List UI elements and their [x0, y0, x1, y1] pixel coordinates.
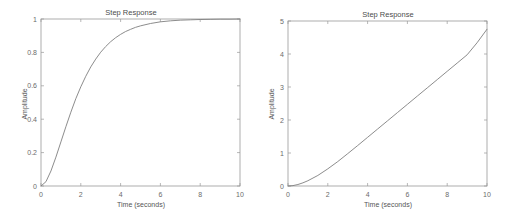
x-tick-label: 2 [79, 191, 83, 198]
tick-marks-left [41, 19, 240, 186]
x-tick-label: 4 [119, 191, 123, 198]
plot-title-left: Step Response [105, 8, 156, 17]
y-tick-label: 5 [280, 18, 284, 25]
y-tick-label: 0.2 [27, 149, 37, 156]
plot-title-right: Step Response [362, 10, 413, 19]
y-tick-labels-left: 00.20.40.60.81 [27, 16, 37, 190]
x-tick-label: 2 [326, 191, 330, 198]
y-tick-label: 0.6 [27, 82, 37, 89]
x-tick-labels-left: 0246810 [39, 191, 244, 198]
y-tick-label: 1 [33, 16, 37, 23]
data-line-right [288, 29, 487, 186]
y-tick-label: 4 [280, 51, 284, 58]
y-tick-label: 0 [33, 183, 37, 190]
plot-svg-right: Step Response 0246810 012345 Time (secon… [257, 0, 514, 222]
x-tick-labels-right: 0246810 [286, 191, 491, 198]
y-tick-label: 0.4 [27, 116, 37, 123]
x-tick-label: 6 [158, 191, 162, 198]
y-tick-label: 0.8 [27, 49, 37, 56]
y-tick-label: 3 [280, 84, 284, 91]
y-axis-label-left: Amplitude [21, 88, 29, 119]
x-axis-label-left: Time (seconds) [117, 201, 165, 209]
y-tick-label: 2 [280, 117, 284, 124]
axes-left: 0246810 00.20.40.60.81 [27, 16, 244, 199]
data-line-left [41, 19, 240, 186]
x-tick-label: 8 [445, 191, 449, 198]
y-axis-label-right: Amplitude [268, 88, 276, 119]
y-tick-label: 1 [280, 150, 284, 157]
x-tick-label: 4 [366, 191, 370, 198]
figure-row: Step Response 0246810 00.20.40.60.81 Tim… [0, 0, 514, 222]
x-axis-label-right: Time (seconds) [364, 201, 412, 209]
x-tick-label: 0 [286, 191, 290, 198]
x-tick-label: 6 [405, 191, 409, 198]
axis-frame-right [288, 21, 487, 186]
y-tick-label: 0 [280, 183, 284, 190]
x-tick-label: 10 [483, 191, 491, 198]
tick-marks-right [288, 21, 487, 186]
x-tick-label: 8 [198, 191, 202, 198]
step-response-chart-right: Step Response 0246810 012345 Time (secon… [257, 0, 514, 222]
plot-svg-left: Step Response 0246810 00.20.40.60.81 Tim… [0, 0, 257, 222]
step-response-chart-left: Step Response 0246810 00.20.40.60.81 Tim… [0, 0, 257, 222]
x-tick-label: 0 [39, 191, 43, 198]
x-tick-label: 10 [236, 191, 244, 198]
axis-frame-left [41, 19, 240, 186]
axes-right: 0246810 012345 [280, 18, 491, 199]
y-tick-labels-right: 012345 [280, 18, 284, 190]
